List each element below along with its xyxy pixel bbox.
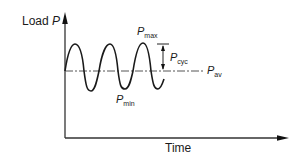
p-cyc-subscript: cyc [177,58,188,65]
p-max-subscript: max [144,32,157,39]
y-axis-label-text: Load [22,14,49,28]
arrow-down-icon [161,64,165,70]
load-curve [65,43,164,91]
y-axis-label-symbol: P [52,14,60,28]
p-cyc-label: Pcyc [170,51,188,68]
cyclic-load-diagram: Load P Time Pmax Pmin Pcyc Pav [0,0,307,161]
y-axis-label: Load P [22,15,60,27]
p-av-label: Pav [207,64,222,81]
x-axis-arrow-icon [277,135,289,141]
p-min-label: Pmin [116,93,135,110]
y-axis-arrow-icon [62,12,68,24]
p-min-subscript: min [123,100,134,107]
p-av-subscript: av [214,71,221,78]
p-max-label: Pmax [137,25,158,42]
x-axis-label: Time [165,142,191,154]
arrow-up-icon [161,45,165,51]
